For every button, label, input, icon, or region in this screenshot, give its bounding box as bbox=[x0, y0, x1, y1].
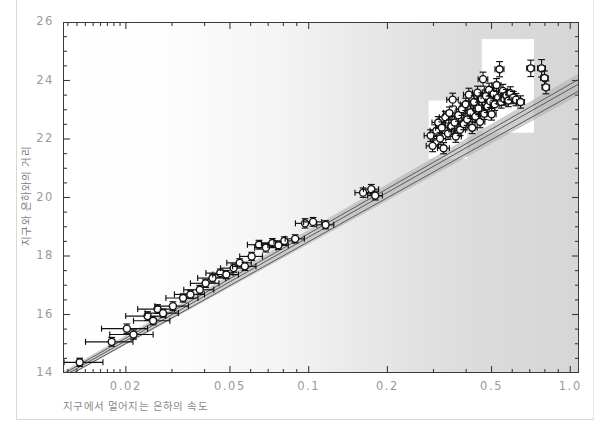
x-axis-title: 지구에서 멀어지는 은하의 속도 bbox=[63, 398, 208, 413]
y-tick-label: 14 bbox=[12, 365, 54, 379]
x-tick-label: 0.2 bbox=[376, 379, 399, 393]
x-tick-label: 0.02 bbox=[110, 379, 142, 393]
axis-tick-layer bbox=[63, 22, 579, 373]
x-tick-label: 0.05 bbox=[214, 379, 246, 393]
y-tick-label: 26 bbox=[12, 14, 54, 28]
x-tick-label: 1.0 bbox=[559, 379, 582, 393]
y-tick-label: 22 bbox=[12, 131, 54, 145]
figure-root: 14161820222426 0.020.050.10.20.51.0 지구와 … bbox=[0, 0, 602, 439]
y-tick-label: 16 bbox=[12, 307, 54, 321]
x-tick-label: 0.1 bbox=[297, 379, 320, 393]
y-axis-title: 지구와 은하와의 거리 bbox=[18, 146, 33, 246]
y-tick-label: 18 bbox=[12, 248, 54, 262]
x-tick-label: 0.5 bbox=[480, 379, 503, 393]
y-tick-label: 24 bbox=[12, 73, 54, 87]
